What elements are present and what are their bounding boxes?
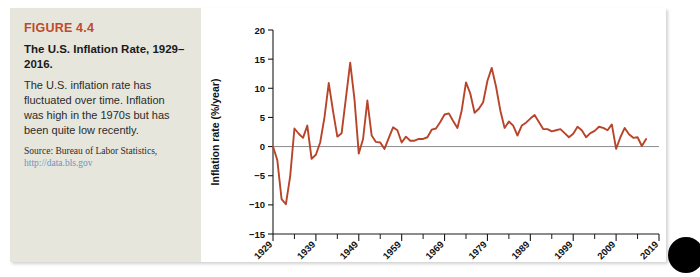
x-tick-label: 2019 — [638, 239, 661, 262]
x-tick-label: 1979 — [466, 239, 489, 262]
chart-svg: 20151050−5−10−15 19291939194919591969197… — [201, 8, 666, 262]
y-tick-label: 15 — [254, 54, 265, 65]
figure-source: Source: Bureau of Labor Statistics, — [24, 145, 187, 157]
figure-description: The U.S. inflation rate has fluctuated o… — [24, 78, 187, 137]
y-axis-title: Inflation rate (%/year) — [209, 79, 221, 186]
x-tick-label: 1929 — [252, 239, 275, 262]
y-tick-label: 0 — [260, 141, 265, 152]
x-tick-label: 2009 — [595, 239, 618, 262]
y-tick-label: 20 — [254, 25, 265, 36]
inflation-rate-line — [273, 63, 646, 205]
figure-source-link[interactable]: http://data.bls.gov — [24, 157, 187, 169]
y-tick-label: 10 — [254, 83, 265, 94]
x-tick-label: 1939 — [295, 239, 318, 262]
figure-title: The U.S. Inflation Rate, 1929–2016. — [24, 42, 187, 72]
figure-number: FIGURE 4.4 — [24, 21, 187, 35]
figure-block: FIGURE 4.4 The U.S. Inflation Rate, 1929… — [10, 8, 666, 262]
x-tick-label: 1989 — [509, 239, 532, 262]
y-tick-label: −15 — [249, 229, 266, 240]
y-tick-label: −10 — [249, 199, 265, 210]
y-tick-label: −5 — [254, 170, 266, 181]
x-tick-label: 1959 — [380, 239, 403, 262]
x-tick-label: 1949 — [337, 239, 360, 262]
x-tick-label: 1999 — [552, 239, 575, 262]
figure-caption-panel: FIGURE 4.4 The U.S. Inflation Rate, 1929… — [10, 8, 201, 262]
inflation-chart: 20151050−5−10−15 19291939194919591969197… — [201, 8, 666, 262]
page-corner-dot — [668, 237, 700, 273]
y-tick-label: 5 — [260, 112, 266, 123]
x-axis: 1929193919491959196919791989199920092019 — [252, 234, 661, 261]
x-tick-label: 1969 — [423, 239, 446, 262]
y-axis: 20151050−5−10−15 — [249, 25, 273, 240]
